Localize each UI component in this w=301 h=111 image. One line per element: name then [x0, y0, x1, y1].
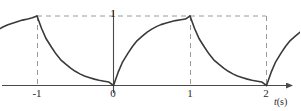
x-axis-title: t(s)	[274, 96, 287, 107]
x-tick-label-2: 2	[263, 88, 269, 99]
curve-segment-rise-zero-to-one	[114, 16, 191, 86]
y-tick-label-1: 1	[110, 8, 116, 19]
curve-segment-rise-before-minus-one	[0, 16, 37, 29]
waveform-curve-group	[0, 16, 300, 86]
x-tick-label-1: 1	[187, 88, 193, 99]
curve-segment-decay-one-to-two	[190, 16, 267, 86]
curve-segment-decay-minus-one-to-zero	[37, 16, 114, 86]
x-tick-label-minus-1: -1	[32, 88, 41, 99]
waveform-plot	[0, 0, 300, 111]
waveform-figure: 1 -1 0 1 2 t(s)	[0, 0, 300, 111]
curve-segment-rise-after-two	[267, 29, 301, 85]
x-axis-title-unit: (s)	[277, 96, 288, 107]
x-tick-label-0: 0	[110, 88, 116, 99]
